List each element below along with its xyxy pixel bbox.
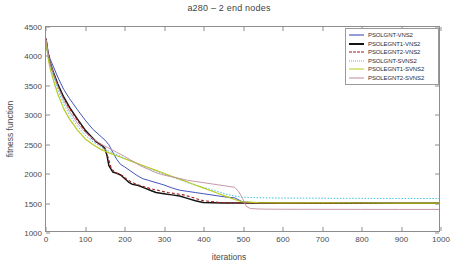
y-tick-mark — [46, 233, 50, 234]
x-tick-mark — [441, 227, 442, 231]
x-tick-label: 400 — [197, 235, 210, 244]
legend-item[interactable]: PSOLEGNT1-SVNS2 — [348, 65, 436, 74]
x-axis-label: iterations — [0, 252, 458, 262]
chart-title: a280 – 2 end nodes — [0, 3, 458, 13]
y-tick-label: 2500 — [24, 140, 42, 149]
legend-swatch-icon — [348, 48, 365, 56]
legend-item[interactable]: PSOLGNT-VNS2 — [348, 31, 436, 40]
legend-swatch-icon — [348, 65, 365, 73]
legend-swatch-icon — [348, 31, 365, 39]
x-tick-label: 300 — [158, 235, 171, 244]
x-tick-label: 0 — [44, 235, 48, 244]
figure-canvas: a280 – 2 end nodes fitness function iter… — [0, 0, 458, 271]
y-tick-label: 3500 — [24, 81, 42, 90]
y-tick-label: 2000 — [24, 170, 42, 179]
legend-swatch-icon — [348, 57, 365, 65]
x-tick-label: 500 — [237, 235, 250, 244]
y-axis-label: fitness function — [5, 101, 15, 158]
y-tick-label: 1000 — [24, 229, 42, 238]
legend-label: PSOLEGNT2-SVNS2 — [368, 75, 424, 81]
y-tick-mark — [435, 233, 439, 234]
y-tick-label: 4000 — [24, 52, 42, 61]
legend-label: PSOLGNT-SVNS2 — [368, 58, 417, 64]
legend-swatch-icon — [348, 40, 365, 48]
x-tick-label: 800 — [355, 235, 368, 244]
legend-swatch-icon — [348, 74, 365, 82]
legend-item[interactable]: PSOLEGNT1-VNS2 — [348, 40, 436, 49]
x-tick-label: 1000 — [432, 235, 450, 244]
legend-item[interactable]: PSOLEGNT2-SVNS2 — [348, 74, 436, 83]
x-tick-mark — [441, 27, 442, 31]
x-tick-label: 100 — [79, 235, 92, 244]
y-tick-label: 4500 — [24, 23, 42, 32]
x-tick-label: 900 — [395, 235, 408, 244]
y-tick-label: 1500 — [24, 199, 42, 208]
x-tick-label: 600 — [276, 235, 289, 244]
x-tick-label: 700 — [316, 235, 329, 244]
y-tick-label: 3000 — [24, 111, 42, 120]
legend-item[interactable]: PSOLEGNT2-VNS2 — [348, 48, 436, 57]
legend-label: PSOLEGNT2-VNS2 — [368, 49, 420, 55]
legend-label: PSOLEGNT1-SVNS2 — [368, 66, 424, 72]
legend: PSOLGNT-VNS2PSOLEGNT1-VNS2PSOLEGNT2-VNS2… — [345, 28, 439, 85]
legend-item[interactable]: PSOLGNT-SVNS2 — [348, 57, 436, 66]
legend-label: PSOLGNT-VNS2 — [368, 32, 413, 38]
x-tick-label: 200 — [118, 235, 131, 244]
legend-label: PSOLEGNT1-VNS2 — [368, 41, 420, 47]
